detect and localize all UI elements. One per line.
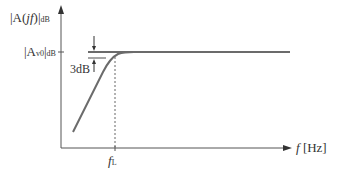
y-axis-label: |A(jf)|dB [10,10,50,26]
x-label-unit: [Hz] [303,140,327,155]
midband-sub: dB [47,49,56,58]
midband-prefix: |A [24,44,36,59]
three-db-label: 3dB [70,62,90,77]
y-axis-arrow-icon [58,5,64,14]
y-label-sub: dB [41,15,50,24]
x-axis-arrow-icon [283,145,292,151]
x-label-var: f [296,140,300,155]
midband-sub-inner: v0 [36,49,44,58]
y-label-var: jf [26,10,33,25]
y-label-prefix: |A( [10,10,26,25]
midband-gain-label: |Av0|dB [24,44,56,60]
corner-frequency-label: fL [108,153,117,169]
corner-sub: L [112,158,117,167]
y-label-suffix: )| [34,10,41,25]
down-arrow-icon [92,46,96,51]
up-arrow-icon [92,59,96,64]
bode-diagram [0,0,340,174]
x-axis-label: f [Hz] [296,140,327,156]
